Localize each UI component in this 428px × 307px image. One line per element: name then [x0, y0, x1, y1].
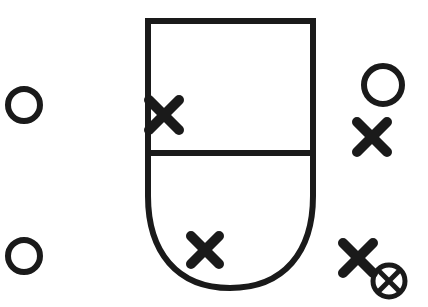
diagram-canvas	[0, 0, 428, 307]
diagram-svg	[0, 0, 428, 307]
